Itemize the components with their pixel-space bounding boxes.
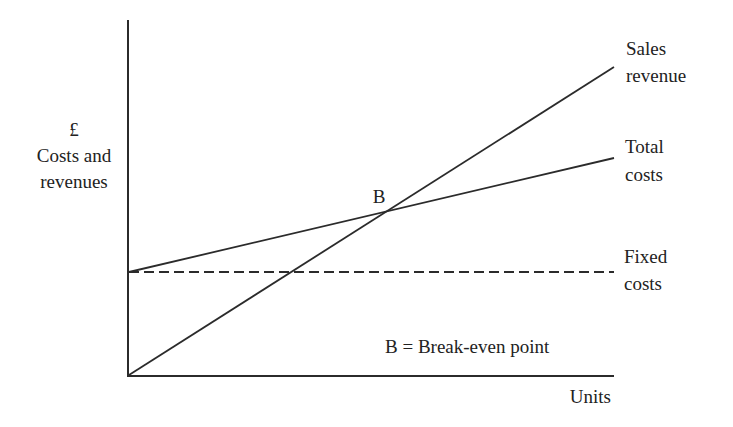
fixed-costs-label-line1: Fixed bbox=[624, 246, 668, 267]
y-axis-currency-symbol: £ bbox=[69, 119, 79, 140]
sales-revenue-label-line1: Sales bbox=[626, 38, 666, 59]
x-axis-label: Units bbox=[570, 386, 611, 407]
fixed-costs-label-line2: costs bbox=[624, 273, 662, 294]
y-axis-label-line2: revenues bbox=[40, 171, 108, 192]
total-costs-label-line1: Total bbox=[625, 136, 664, 157]
break-even-legend: B = Break-even point bbox=[385, 336, 550, 357]
sales-revenue-label-line2: revenue bbox=[626, 65, 686, 86]
total-costs-label-line2: costs bbox=[625, 164, 663, 185]
break-even-marker: B bbox=[373, 186, 386, 207]
sales-revenue-line bbox=[129, 67, 614, 375]
total-costs-line bbox=[129, 158, 614, 272]
break-even-chart: £ Costs and revenues Sales revenue Total… bbox=[0, 0, 733, 427]
y-axis-label-line1: Costs and bbox=[37, 145, 112, 166]
